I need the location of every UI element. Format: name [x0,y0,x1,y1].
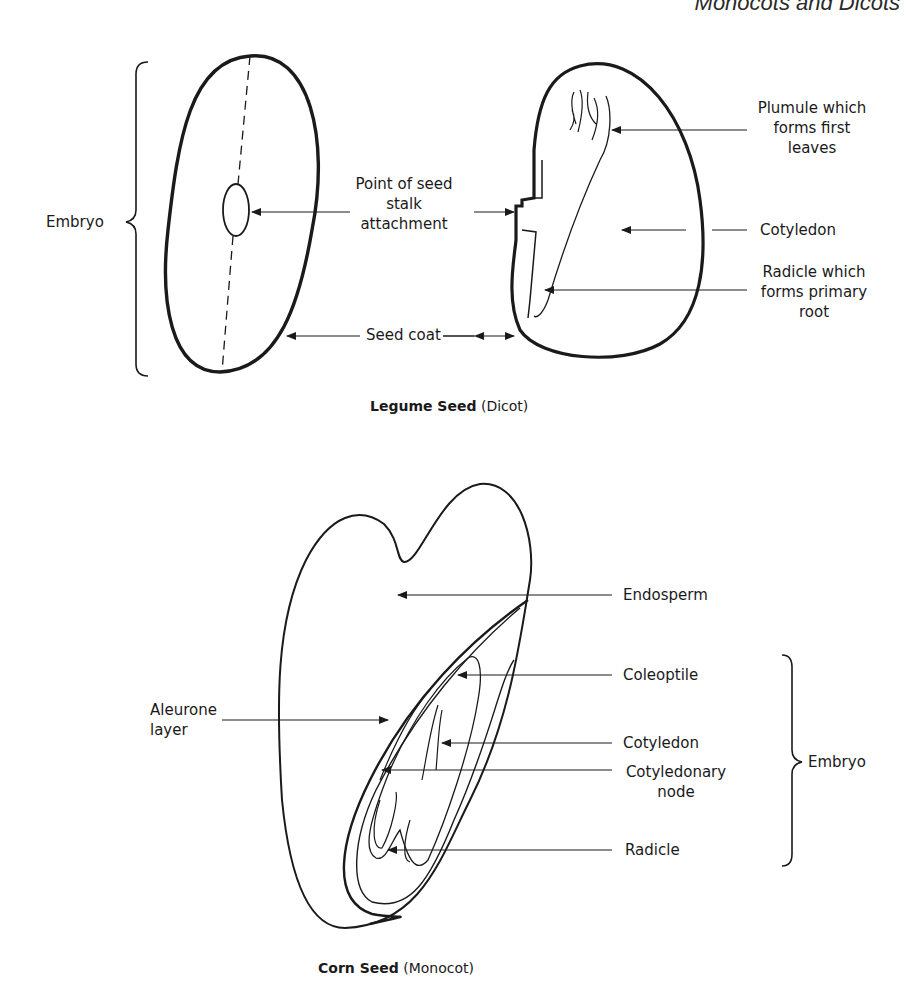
legume-seed-open [512,64,703,358]
caption-bold: Legume Seed [370,398,476,414]
label-line: root [752,302,876,322]
label-line: Cotyledonary [620,762,732,782]
label-coleoptile: Coleoptile [623,665,698,685]
label-line: Plumule which [752,98,872,118]
caption-corn-seed: Corn Seed (Monocot) [318,960,474,976]
caption-rest: (Monocot) [399,960,474,976]
label-line: forms first [752,118,872,138]
label-line: forms primary [752,282,876,302]
label-plumule: Plumule which forms first leaves [752,98,872,158]
label-radicle-monocot: Radicle [625,840,680,860]
embryo-brace-left [126,62,148,376]
label-line: leaves [752,138,872,158]
legume-seed-outer [166,56,319,372]
caption-legume-seed: Legume Seed (Dicot) [370,398,528,414]
label-line: node [620,782,732,802]
label-line: layer [150,720,220,740]
label-line: Aleurone [150,700,220,720]
label-seed-coat: Seed coat [364,325,443,345]
label-line: attachment [354,214,454,234]
label-embryo-dicot: Embryo [46,212,104,232]
label-cotyledon-monocot: Cotyledon [623,733,699,753]
label-point-of-seed-stalk-attachment: Point of seed stalk attachment [354,174,454,234]
corn-seed [279,484,531,928]
label-radicle-dicot: Radicle which forms primary root [752,262,876,322]
caption-rest: (Dicot) [476,398,528,414]
label-line: stalk [354,194,454,214]
label-cotyledon-dicot: Cotyledon [760,220,836,240]
label-line: Point of seed [354,174,454,194]
label-line: Radicle which [752,262,876,282]
label-aleurone-layer: Aleurone layer [150,700,220,740]
embryo-brace-right [782,655,802,866]
label-cotyledonary-node: Cotyledonary node [620,762,732,802]
caption-bold: Corn Seed [318,960,399,976]
label-endosperm: Endosperm [623,585,708,605]
label-embryo-monocot: Embryo [808,752,866,772]
